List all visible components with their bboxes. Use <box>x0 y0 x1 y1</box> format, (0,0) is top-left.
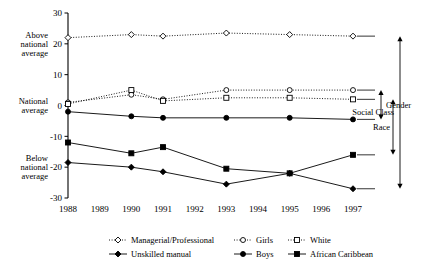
chart-figure: 3020100-10-20-30198819891990199119921993… <box>0 0 440 273</box>
series-point <box>351 97 356 102</box>
y-axis-tick-label: -20 <box>50 162 62 172</box>
legend-item-label: Unskilled manual <box>131 249 192 259</box>
x-axis-tick-label: 1991 <box>154 204 172 214</box>
series-point <box>224 115 229 120</box>
legend-item-label: African Caribbean <box>310 249 374 259</box>
series-point <box>351 152 356 157</box>
y-axis-tick-label: -10 <box>50 132 62 142</box>
annotation-label: Race <box>373 122 390 132</box>
legend-item-label: White <box>310 235 331 245</box>
series-point <box>161 98 166 103</box>
annotation-label: Gender <box>386 100 411 110</box>
legend-key-marker <box>241 252 246 257</box>
series-point <box>161 145 166 150</box>
legend-item-label: Boys <box>256 249 273 259</box>
series-point <box>351 88 356 93</box>
legend-key-marker <box>295 252 300 257</box>
legend-item-label: Girls <box>256 235 273 245</box>
y-axis-tick-label: 30 <box>53 8 63 18</box>
series-point <box>66 109 71 114</box>
x-axis-tick-label: 1989 <box>91 204 110 214</box>
legend-key-marker <box>241 238 246 243</box>
y-axis-tick-label: -30 <box>50 193 62 203</box>
legend-key-marker <box>295 238 300 243</box>
series-point <box>129 88 134 93</box>
series-point <box>224 88 229 93</box>
y-axis-anchor-label: average <box>22 105 49 115</box>
y-axis-anchor-label: average <box>22 171 49 181</box>
y-axis-anchor-label: average <box>22 48 49 58</box>
series-point <box>224 95 229 100</box>
y-axis-tick-label: 0 <box>58 101 63 111</box>
series-point <box>129 114 134 119</box>
y-axis-tick-label: 20 <box>53 39 63 49</box>
x-axis-tick-label: 1993 <box>217 204 236 214</box>
x-axis-tick-label: 1995 <box>281 204 300 214</box>
y-axis-tick-label: 10 <box>53 70 63 80</box>
x-axis-tick-label: 1992 <box>186 204 204 214</box>
series-point <box>287 115 292 120</box>
x-axis-tick-label: 1988 <box>59 204 78 214</box>
series-point <box>66 101 71 106</box>
x-axis-tick-label: 1997 <box>344 204 363 214</box>
x-axis-tick-label: 1990 <box>122 204 141 214</box>
series-point <box>129 151 134 156</box>
series-point <box>66 140 71 145</box>
series-point <box>351 117 356 122</box>
series-point <box>161 115 166 120</box>
series-point <box>287 88 292 93</box>
x-axis-tick-label: 1996 <box>312 204 331 214</box>
legend-item-label: Managerial/Professional <box>131 235 215 245</box>
x-axis-tick-label: 1994 <box>249 204 268 214</box>
line-chart-canvas: 3020100-10-20-30198819891990199119921993… <box>0 0 440 273</box>
series-point <box>224 166 229 171</box>
series-point <box>287 95 292 100</box>
